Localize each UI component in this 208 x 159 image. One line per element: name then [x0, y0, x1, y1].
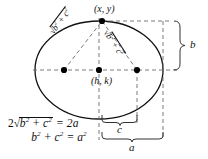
top-point-label: (x, y) [94, 4, 115, 14]
equation-lhs-plus-c: + c [41, 131, 60, 143]
equation-radicand-plus-c: + c [29, 117, 48, 129]
semi-major-label: a [129, 142, 135, 153]
ellipse-diagram: (x, y) (h, k) b c a √b2 + c2 √b2 + c2 2√… [0, 0, 208, 159]
center-point [96, 67, 102, 73]
left-focus-point [61, 67, 67, 73]
focal-distance-label: c [117, 124, 122, 135]
equation-line-2-relation: = a [63, 131, 83, 143]
semi-minor-label: b [190, 39, 196, 50]
equation-block: 2√b2 + c2 = 2a b2 + c2 = a2 [6, 117, 102, 143]
top-vertex-point [99, 18, 105, 24]
left-focal-radius-dashed [64, 21, 102, 70]
center-point-label: (h, k) [91, 76, 112, 86]
equation-radicand-c-exponent: 2 [48, 116, 52, 124]
semi-minor-brace [174, 21, 185, 70]
equation-rhs-a-exponent: 2 [83, 130, 87, 138]
equation-line-2: b2 + c2 = a2 [6, 132, 102, 144]
equation-line-1-relation: = 2a [53, 117, 79, 129]
right-focus-point [134, 67, 140, 73]
equation-line-1: 2√b2 + c2 = 2a [6, 117, 102, 130]
